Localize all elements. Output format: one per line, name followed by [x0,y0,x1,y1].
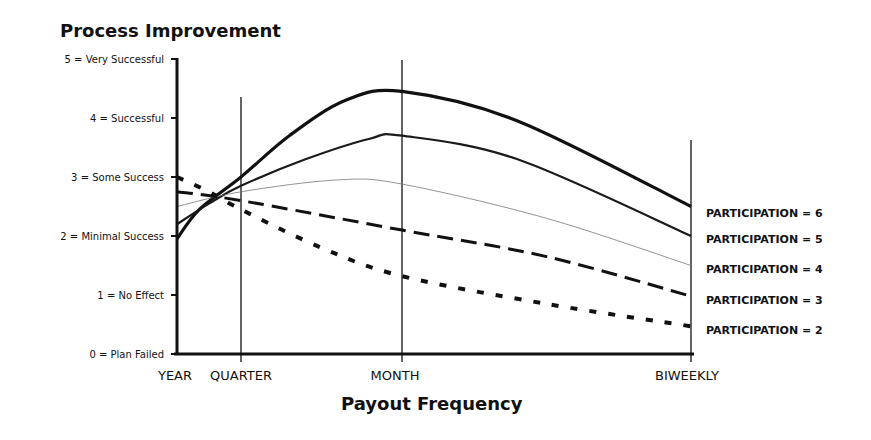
series-line-participation-6 [177,90,691,239]
legend-label-participation-2: PARTICIPATION = 2 [706,324,823,337]
chart-title: Process Improvement [60,20,281,41]
legend-label-participation-3: PARTICIPATION = 3 [706,294,823,307]
x-tick-label-year: YEAR [157,368,192,383]
series-line-participation-5 [177,134,691,236]
y-axis-ticks: 5 = Very Successful4 = Successful3 = Som… [60,54,178,360]
series-line-participation-4 [177,179,691,265]
legend-label-participation-5: PARTICIPATION = 5 [706,233,823,246]
y-tick-label: 4 = Successful [90,113,164,124]
series-lines [177,90,691,326]
x-tick-label-biweekly: BIWEEKLY [655,368,719,383]
y-tick-label: 5 = Very Successful [65,54,164,65]
legend-label-participation-4: PARTICIPATION = 4 [706,263,823,276]
y-tick-label: 3 = Some Success [71,172,164,183]
y-tick-label: 2 = Minimal Success [60,231,164,242]
process-improvement-chart: Process Improvement 5 = Very Successful4… [0,0,871,440]
legend-label-participation-6: PARTICIPATION = 6 [706,207,823,220]
x-axis-label: Payout Frequency [341,393,523,414]
x-axis-ticks: YEARQUARTERMONTHBIWEEKLY [157,368,719,383]
series-line-participation-3 [177,192,691,296]
y-tick-label: 0 = Plan Failed [89,349,164,360]
legend: PARTICIPATION = 6PARTICIPATION = 5PARTIC… [706,207,823,337]
y-tick-label: 1 = No Effect [97,290,164,301]
x-tick-label-quarter: QUARTER [210,368,272,383]
x-tick-label-month: MONTH [371,368,420,383]
